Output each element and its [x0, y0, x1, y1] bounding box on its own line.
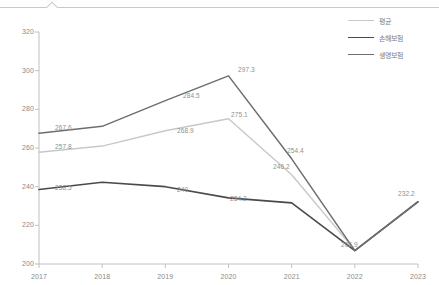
- x-tick-label: 2020: [213, 273, 245, 280]
- x-tick-label: 2018: [86, 273, 118, 280]
- x-tick-label: 2019: [149, 273, 181, 280]
- data-point-label: 257.8: [55, 143, 72, 150]
- y-tick-label: 200: [8, 260, 34, 267]
- y-tick-label: 240: [8, 183, 34, 190]
- legend-line-swatch: [348, 20, 374, 21]
- x-tick-label: 2022: [339, 273, 371, 280]
- legend-item[interactable]: 손해보험: [348, 29, 403, 46]
- data-point-label: 246.2: [273, 163, 290, 170]
- x-tick-label: 2021: [276, 273, 308, 280]
- y-tick-label: 220: [8, 221, 34, 228]
- y-tick-label: 280: [8, 105, 34, 112]
- legend-line-swatch: [348, 54, 374, 55]
- data-point-label: 238.5: [55, 184, 72, 191]
- legend-item[interactable]: 생명보험: [348, 46, 403, 63]
- y-tick-label: 320: [8, 28, 34, 35]
- chart-page: 320300280260240220200 201720182019202020…: [0, 0, 439, 285]
- data-point-label: 254.4: [287, 147, 304, 154]
- y-tick-label: 260: [8, 144, 34, 151]
- data-point-label: 234.2: [230, 195, 247, 202]
- legend-item-label: 생명보험: [379, 50, 403, 60]
- data-point-label: 232.2: [398, 190, 415, 197]
- data-point-label: 268.9: [177, 127, 194, 134]
- chart-legend: 평균손해보험생명보험: [348, 12, 403, 63]
- data-point-label: 284.5: [183, 92, 200, 99]
- y-tick-label: 300: [8, 67, 34, 74]
- legend-item[interactable]: 평균: [348, 12, 403, 29]
- chrome-caret-notch-icon: [42, 0, 64, 8]
- x-tick-label: 2017: [23, 273, 55, 280]
- legend-item-label: 손해보험: [379, 33, 403, 43]
- legend-item-label: 평균: [379, 16, 391, 26]
- data-point-label: 206.9: [341, 241, 358, 248]
- data-point-label: 275.1: [231, 111, 248, 118]
- x-tick-label: 2023: [402, 273, 434, 280]
- legend-line-swatch: [348, 37, 374, 38]
- data-point-label: 297.3: [238, 66, 255, 73]
- data-point-label: 240: [177, 186, 188, 193]
- chrome-divider-line: [0, 7, 439, 8]
- data-point-label: 267.6: [55, 124, 72, 131]
